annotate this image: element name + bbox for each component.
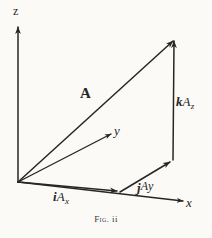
magnitude-A-x: A — [57, 189, 65, 204]
magnitude-A-y: A — [141, 179, 148, 193]
vector-components-figure: z y x A kAz iAx jAy Fig. ii — [0, 0, 212, 238]
subscript-z: z — [191, 101, 195, 111]
subscript-y: y — [148, 179, 153, 193]
vector-label-jAy: jAy — [137, 180, 153, 194]
figure-caption-prefix: Fig. — [94, 214, 109, 224]
axis-label-x: x — [186, 196, 192, 209]
axis-label-y: y — [114, 124, 120, 137]
figure-caption-number: ii — [112, 214, 118, 224]
magnitude-A-z: A — [183, 94, 191, 109]
vector-label-A: A — [80, 86, 91, 101]
vector-kAz-line — [173, 41, 174, 160]
diagram-canvas — [0, 0, 212, 238]
vector-label-iAx: iAx — [53, 190, 69, 206]
axis-line-y — [18, 134, 111, 182]
vector-label-kAz: kAz — [176, 95, 194, 111]
subscript-x: x — [65, 196, 69, 206]
axis-label-z: z — [13, 5, 18, 17]
vector-A-line — [18, 41, 173, 182]
figure-caption: Fig. ii — [0, 214, 212, 224]
